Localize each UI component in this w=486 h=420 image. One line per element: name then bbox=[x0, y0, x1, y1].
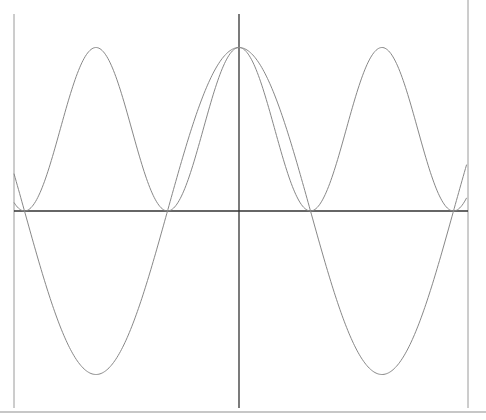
curve-cos-squared bbox=[14, 48, 467, 212]
function-plot bbox=[0, 0, 486, 420]
